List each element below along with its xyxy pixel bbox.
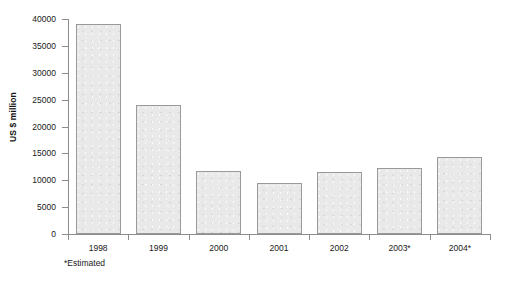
bar [136,105,181,234]
bar [76,24,121,234]
x-tick-label: 2003* [388,243,410,253]
x-tick-mark [490,234,491,240]
y-tick-mark [62,100,68,101]
y-tick-label: 30000 [0,68,56,78]
x-tick-mark [128,234,129,240]
x-tick-label: 1998 [89,243,108,253]
y-tick-mark [62,46,68,47]
bar [257,183,302,234]
y-tick-mark [62,153,68,154]
bar-chart: US $ million 050001000015000200002500030… [0,0,505,282]
x-tick-label: 2000 [209,243,228,253]
bar [317,172,362,234]
x-tick-mark [189,234,190,240]
y-tick-label: 40000 [0,14,56,24]
x-axis-line [68,234,490,235]
x-tick-mark [68,234,69,240]
x-tick-mark [249,234,250,240]
y-tick-label: 25000 [0,95,56,105]
y-tick-label: 15000 [0,148,56,158]
y-tick-label: 10000 [0,175,56,185]
y-tick-mark [62,180,68,181]
x-tick-mark [309,234,310,240]
y-axis-line [68,19,69,235]
x-tick-mark [369,234,370,240]
y-tick-label: 20000 [0,122,56,132]
plot-area: 0500010000150002000025000300003500040000… [0,0,505,282]
footnote: *Estimated [64,258,105,268]
bar [196,171,241,234]
y-tick-label: 5000 [0,202,56,212]
y-tick-mark [62,19,68,20]
x-tick-mark [430,234,431,240]
y-tick-mark [62,73,68,74]
x-tick-label: 1999 [149,243,168,253]
y-tick-label: 35000 [0,41,56,51]
bar [437,157,482,234]
x-tick-label: 2001 [270,243,289,253]
x-tick-label: 2004* [449,243,471,253]
bar [377,168,422,234]
y-tick-mark [62,207,68,208]
y-tick-label: 0 [0,229,56,239]
x-tick-label: 2002 [330,243,349,253]
y-tick-mark [62,127,68,128]
